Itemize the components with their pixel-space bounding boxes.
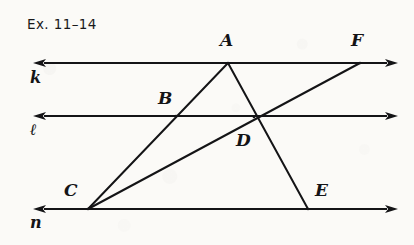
point-label-D: D: [236, 132, 251, 149]
point-dot-B: [175, 115, 178, 118]
point-label-A: A: [220, 32, 233, 49]
point-dot-D: [253, 116, 256, 119]
point-label-B: B: [158, 90, 172, 107]
line-label-k: k: [30, 70, 41, 86]
point-label-C: C: [64, 182, 78, 199]
point-label-E: E: [315, 182, 328, 199]
line-label-n: n: [30, 215, 42, 231]
point-label-F: F: [351, 32, 363, 49]
point-dot-C: [87, 208, 90, 211]
point-dot-E: [307, 208, 310, 211]
segment-CA: [88, 63, 228, 209]
point-dot-F: [359, 62, 362, 65]
figure-page: Ex. 11–14 kℓn ABCDEF: [0, 0, 414, 245]
point-dot-A: [227, 62, 230, 65]
parallel-lines-group: [33, 59, 398, 213]
line-label-l: ℓ: [30, 122, 37, 138]
